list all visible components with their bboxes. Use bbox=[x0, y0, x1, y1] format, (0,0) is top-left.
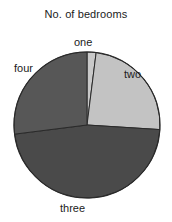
pie-slice-two bbox=[87, 53, 160, 130]
pie-label-four: four bbox=[14, 62, 33, 74]
pie-chart-canvas bbox=[0, 0, 172, 222]
pie-slice-three bbox=[15, 125, 160, 198]
pie-label-two: two bbox=[124, 68, 141, 80]
pie-chart-figure: No. of bedrooms one two three four bbox=[0, 0, 172, 222]
pie-label-three: three bbox=[60, 202, 85, 214]
pie-label-one: one bbox=[74, 36, 92, 48]
